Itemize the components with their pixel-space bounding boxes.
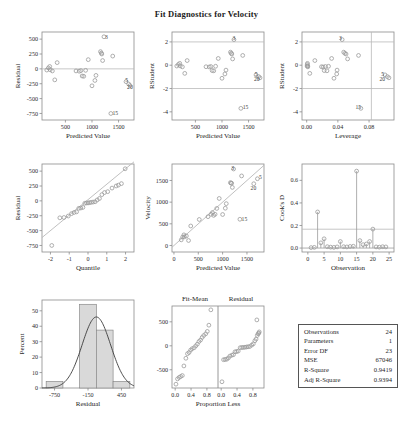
data-point [94,74,98,78]
data-point-residual [253,339,257,343]
y-tick-label: 500 [29,36,38,42]
point-label: 15 [355,104,361,110]
data-point [66,214,70,218]
y-axis-label-velocity-vs-predicted: Velocity [144,164,152,252]
data-point [306,65,310,69]
data-point [223,206,227,210]
data-point [84,68,88,72]
histogram-bar [46,382,63,388]
data-point [313,59,317,63]
y-tick-label: 0.2 [290,223,298,229]
panel-strip-title: Fit-Mean [172,295,218,303]
data-point [95,198,99,202]
data-point [258,76,262,80]
x-tick-label: 0.4 [233,392,241,398]
point-label: 3 [339,35,342,41]
data-point-residual [223,358,227,362]
data-point [82,74,86,78]
data-point [211,211,215,215]
data-point [183,71,187,75]
data-point-residual [255,334,259,338]
data-point [231,57,235,61]
data-point [189,224,193,228]
data-point [90,84,94,88]
x-tick-label: 0.8 [249,392,257,398]
data-point [322,69,326,73]
data-point [50,69,54,73]
data-point [230,186,234,190]
plot-frame [42,32,134,120]
data-point-fit-mean [174,382,178,386]
data-point [48,68,52,72]
data-point [209,65,213,69]
data-point [239,106,243,110]
data-point [252,182,256,186]
data-point [387,76,391,80]
needle-marker [361,243,365,247]
data-point [79,69,83,73]
point-label: 20 [251,185,257,191]
point-label: 15 [242,216,248,222]
data-point [77,206,81,210]
data-point-fit-mean [192,346,196,350]
table-row: MSE67046 [302,356,394,366]
y-tick-label: 0 [35,385,38,391]
data-point-residual [228,354,232,358]
data-point [305,63,309,67]
data-point [178,64,182,68]
data-point [224,202,228,206]
data-point [183,235,187,239]
needle-marker [374,245,378,249]
x-tick-label: 0.04 [333,124,344,130]
data-point-residual [257,330,261,334]
y-axis-label-residual-histogram: Percent [18,300,26,388]
data-point [206,215,210,219]
x-axis-label-velocity-vs-predicted: Predicted Value [172,264,264,272]
histogram-bar [96,330,113,388]
data-point [109,112,113,116]
data-point [232,167,236,171]
x-tick-label: 10 [337,256,343,262]
stat-value: 1 [361,337,394,347]
histogram-bar [113,382,130,388]
y-tick-label: -500 [157,367,168,373]
data-point [48,65,52,69]
data-point [209,212,213,216]
data-point [98,197,102,201]
data-point-fit-mean [200,336,204,340]
needle-marker [351,244,355,248]
y-tick-label: -250 [27,81,38,87]
y-tick-label: 0 [165,62,168,68]
needle-marker [384,245,388,249]
needle-marker [312,245,316,249]
data-point [74,69,78,73]
data-point [241,54,245,58]
stat-value: 0.9394 [361,375,394,385]
y-tick-label: -4 [293,109,298,115]
y-tick-label: -2 [163,86,168,92]
data-point [210,69,214,73]
x-axis-label-rstudent-vs-predicted: Predicted Value [172,132,264,140]
data-point [117,183,121,187]
y-tick-label: -750 [27,243,38,249]
needle-marker [309,246,313,250]
point-label: 3 [231,165,234,171]
point-label: 15 [112,110,118,116]
plot-frame [42,300,134,388]
x-axis-label-rstudent-vs-leverage: Leverage [302,132,394,140]
y-tick-label: 500 [29,168,38,174]
data-point [77,69,81,73]
data-point [46,66,50,70]
reference-line [42,162,134,238]
data-point [79,206,83,210]
data-point [220,76,224,80]
y-tick-label: 30 [32,339,38,345]
data-point [86,201,90,205]
y-tick-label: 10 [32,370,38,376]
data-point [197,218,201,222]
x-tick-label: 1500 [242,124,254,130]
data-point [342,50,346,54]
y-tick-label: 0.6 [290,177,298,183]
x-tick-label: 450 [117,392,126,398]
point-label: 5 [255,71,258,77]
